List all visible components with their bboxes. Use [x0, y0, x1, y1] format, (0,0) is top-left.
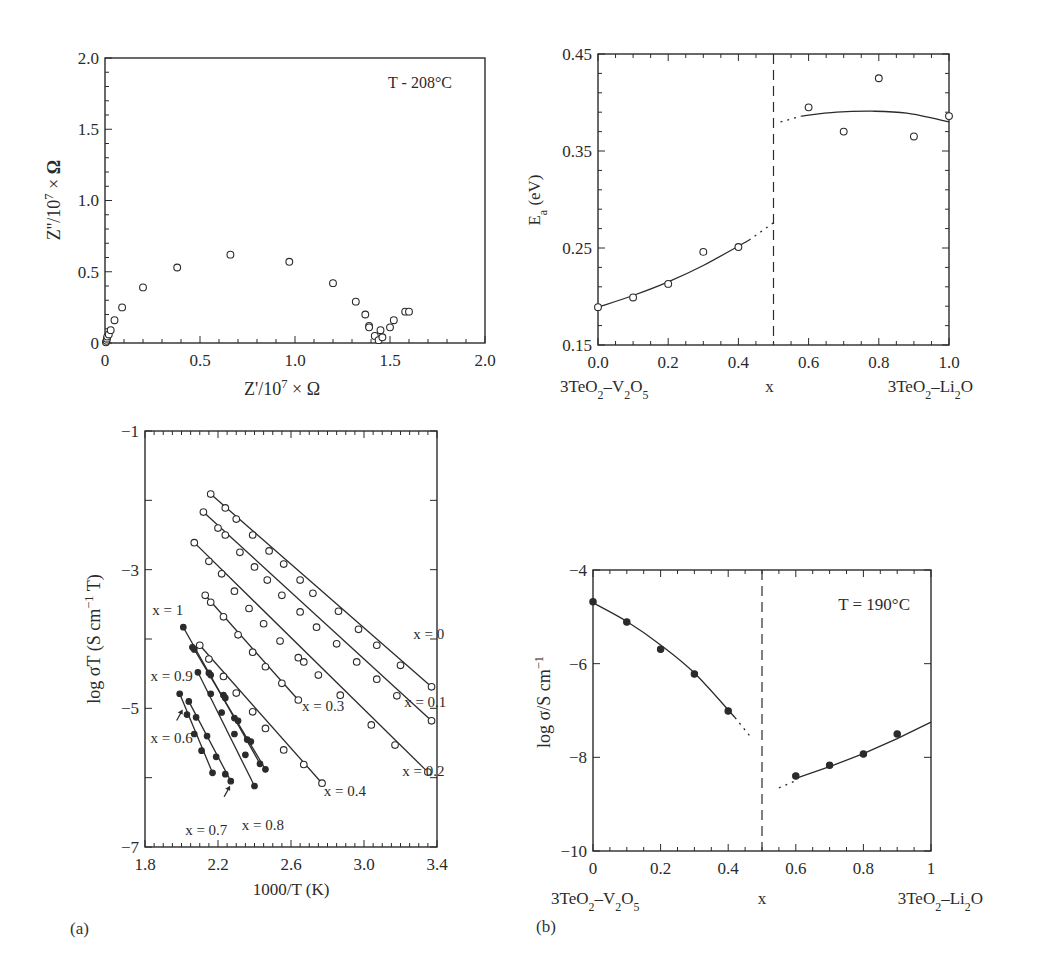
open-circle-marker [260, 620, 267, 627]
x-end-label-right: 3TeO2–Li2O [898, 889, 983, 914]
open-circle-marker [310, 590, 317, 597]
open-circle-marker [428, 684, 435, 691]
open-circle-marker [840, 128, 847, 135]
x-tick-label: 0.8 [868, 353, 889, 372]
series-x0-2: x = 0.2 [191, 539, 445, 778]
y-tick-label: 0.25 [562, 239, 592, 258]
open-circle-marker [264, 577, 271, 584]
open-circle-marker [875, 75, 882, 82]
y-tick-label: 1.5 [78, 120, 99, 139]
open-circle-marker [220, 614, 227, 621]
open-circle-marker [249, 532, 256, 539]
open-circle-marker [355, 626, 362, 633]
open-circle-marker [397, 662, 404, 669]
y-tick-label: 1.0 [78, 191, 99, 210]
fit-curve-right [802, 111, 949, 122]
series-label: x = 1 [152, 602, 183, 618]
open-circle-marker [394, 693, 401, 700]
open-circle-marker [297, 609, 304, 616]
open-circle-marker [280, 747, 287, 754]
x-tick-label: 0.5 [189, 351, 210, 370]
open-circle-marker [295, 697, 302, 704]
x-tick-label: 1.0 [938, 353, 959, 372]
filled-circle-marker [860, 751, 866, 757]
open-circle-marker [206, 558, 213, 565]
chart-nyquist: 00.51.01.52.000.51.01.52.0T - 208°CZ'/10… [42, 49, 496, 399]
x-end-label-left: 3TeO2–V2O5 [560, 377, 649, 402]
filled-circle-marker [219, 710, 225, 716]
filled-circle-marker [894, 731, 900, 737]
open-circle-marker [206, 656, 213, 663]
open-circle-marker [630, 294, 637, 301]
y-tick-label: −8 [569, 748, 587, 767]
x-tick-label: 0.8 [853, 859, 874, 878]
open-circle-marker [366, 324, 373, 331]
series-label: x = 0.2 [402, 763, 444, 779]
open-circle-marker [107, 327, 114, 334]
open-circle-marker [207, 491, 214, 498]
filled-circle-marker [177, 691, 183, 697]
filled-circle-marker [204, 733, 210, 739]
x-end-label-left: 3TeO2–V2O5 [551, 889, 640, 914]
open-circle-marker [392, 742, 399, 749]
open-circle-marker [300, 761, 307, 768]
open-circle-marker [119, 304, 126, 311]
open-circle-marker [200, 509, 207, 516]
fit-curve-left [598, 240, 749, 307]
x-tick-label: 1.0 [284, 351, 305, 370]
open-circle-marker [406, 308, 413, 315]
open-circle-marker [196, 642, 203, 649]
x-tick-label: 2.0 [474, 351, 495, 370]
x-tick-label: 2.6 [280, 855, 301, 874]
open-circle-marker [297, 577, 304, 584]
fit-extrapolation-right [781, 116, 802, 122]
filled-circle-marker [252, 783, 258, 789]
filled-circle-marker [191, 647, 197, 653]
filled-circle-marker [793, 773, 799, 779]
y-tick-label: −7 [121, 838, 140, 857]
panel-label-a: (a) [70, 919, 89, 939]
filled-circle-marker [263, 767, 269, 773]
filled-circle-marker [184, 712, 190, 718]
open-circle-marker [249, 649, 256, 656]
series-label: x = 0 [413, 626, 444, 642]
y-axis-label: Ea (eV) [525, 174, 550, 225]
open-circle-marker [595, 304, 602, 311]
open-circle-marker [700, 248, 707, 255]
y-axis-label: log σ/S cm−1 [532, 656, 554, 748]
y-tick-label: 0 [91, 334, 100, 353]
open-circle-marker [174, 264, 181, 271]
x-tick-label: 0.2 [650, 859, 671, 878]
filled-circle-marker [195, 669, 201, 675]
filled-circle-marker [223, 695, 229, 701]
open-circle-marker [249, 709, 256, 716]
x-tick-label: 0.6 [798, 353, 819, 372]
open-circle-marker [368, 722, 375, 729]
open-circle-marker [377, 327, 384, 334]
open-circle-marker [262, 663, 269, 670]
series-label: x = 0.4 [324, 783, 367, 799]
y-tick-label: −4 [569, 561, 588, 580]
x-tick-label: 3.0 [353, 855, 374, 874]
x-tick-label: 1 [927, 859, 936, 878]
y-tick-label: 0.35 [562, 142, 592, 161]
filled-circle-marker [199, 748, 205, 754]
panel-label-b: (b) [536, 917, 556, 937]
series-x0-7: x = 0.7 [185, 699, 233, 838]
x-tick-label: 0.4 [728, 353, 750, 372]
x-axis-label: x [765, 377, 774, 396]
open-circle-marker [218, 571, 225, 578]
filled-circle-marker [590, 599, 596, 605]
y-tick-label: −5 [121, 699, 139, 718]
plot-frame [145, 431, 437, 847]
series-fit-line [198, 672, 255, 786]
open-circle-marker [300, 659, 307, 666]
filled-circle-marker [725, 708, 731, 714]
temperature-annotation: T - 208°C [388, 74, 452, 91]
series-label: x = 0.3 [302, 698, 344, 714]
x-tick-label: 0.4 [718, 859, 740, 878]
filled-circle-marker [193, 715, 199, 721]
open-circle-marker [313, 624, 320, 631]
figure-canvas: 00.51.01.52.000.51.01.52.0T - 208°CZ'/10… [0, 0, 1055, 979]
filled-circle-marker [208, 672, 214, 678]
